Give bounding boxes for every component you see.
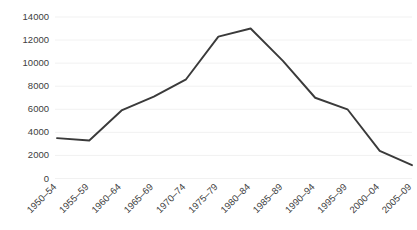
chart-canvas: 02000400060008000100001200014000 1950–54… bbox=[0, 0, 417, 230]
line-chart: 02000400060008000100001200014000 1950–54… bbox=[0, 0, 417, 230]
y-axis-tick-label: 4000 bbox=[28, 126, 49, 137]
y-axis-tick-label: 8000 bbox=[28, 80, 49, 91]
y-axis-tick-label: 12000 bbox=[23, 34, 49, 45]
y-axis-tick-label: 0 bbox=[44, 173, 49, 184]
y-axis-tick-label: 10000 bbox=[23, 57, 49, 68]
y-axis-tick-label: 6000 bbox=[28, 103, 49, 114]
y-axis-tick-label: 2000 bbox=[28, 149, 49, 160]
y-axis-tick-label: 14000 bbox=[23, 11, 49, 22]
